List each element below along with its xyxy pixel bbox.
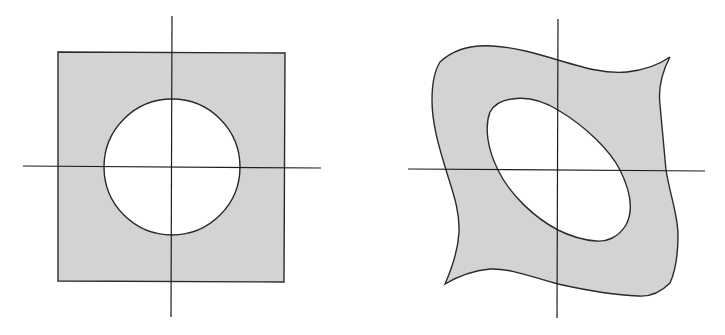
figure	[0, 0, 725, 335]
right-panel	[408, 19, 705, 318]
left-panel	[23, 16, 321, 317]
